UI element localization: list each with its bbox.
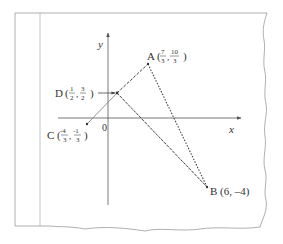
point-a [147, 63, 149, 65]
label-d-x-num: 1 [70, 85, 74, 93]
label-a-close-paren: ) [183, 50, 187, 63]
label-c-x-den: 3 [63, 136, 67, 144]
point-b [206, 186, 208, 188]
label-a-y-num: 10 [171, 48, 179, 56]
label-a-letter: A [147, 50, 155, 62]
label-d-y-num: 3 [81, 85, 85, 93]
label-d-letter: D [55, 87, 63, 99]
label-d-y-den: 2 [81, 94, 85, 102]
label-d-comma: , [76, 89, 78, 99]
label-c-close-paren: ) [84, 129, 88, 142]
point-c [86, 123, 88, 125]
label-d-close-paren: ) [90, 87, 94, 100]
coordinate-diagram: y x 0 A ( 7 3 , 10 3 ) D ( 1 2 , 3 2 ) C… [0, 0, 283, 244]
point-d [116, 92, 119, 95]
label-c-x-num: -4 [60, 127, 66, 135]
label-a-comma: , [167, 52, 169, 62]
x-axis-label: x [228, 123, 234, 135]
label-c-y-den: 3 [76, 136, 80, 144]
label-a-x-num: 7 [161, 48, 165, 56]
label-b: B (6, –4) [210, 185, 250, 198]
label-c-y-num: -1 [73, 127, 79, 135]
label-a-x-den: 3 [161, 57, 165, 65]
paper-frame [15, 13, 267, 231]
label-c-letter: C [47, 129, 54, 141]
label-a-y-den: 3 [173, 57, 177, 65]
y-axis-label: y [97, 38, 103, 50]
label-d-open-paren: ( [65, 87, 69, 100]
label-d-x-den: 2 [70, 94, 74, 102]
origin-label: 0 [102, 122, 107, 133]
label-c-comma: , [69, 131, 71, 141]
